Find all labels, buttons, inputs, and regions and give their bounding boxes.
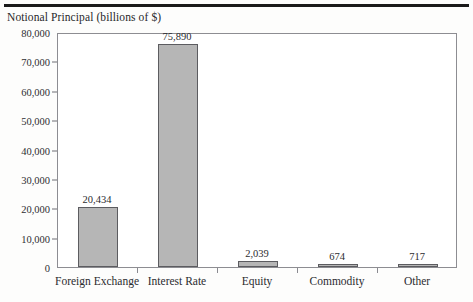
y-axis-tick-label: 70,000 [2, 57, 50, 68]
x-axis-category-label: Equity [242, 275, 273, 287]
bar-value-label: 20,434 [83, 194, 112, 205]
x-axis-tick [217, 268, 218, 273]
x-axis-category-label: Other [404, 275, 430, 287]
y-axis-tick-label: 10,000 [2, 233, 50, 244]
y-axis-tick-label: 40,000 [2, 145, 50, 156]
x-axis-category-label: Foreign Exchange [55, 275, 139, 287]
y-axis-tick-label: 50,000 [2, 116, 50, 127]
bar-interest-rate [158, 44, 198, 267]
page-top-rule [4, 4, 469, 7]
bar-value-label: 674 [329, 251, 345, 262]
chart-page: Notional Principal (billions of $) 010,0… [0, 0, 473, 302]
bar-other [398, 264, 438, 267]
bar-value-label: 2,039 [245, 248, 269, 259]
bar-foreign-exchange [78, 207, 118, 267]
bar-value-label: 717 [409, 251, 425, 262]
x-axis-tick [137, 268, 138, 273]
chart-title: Notional Principal (billions of $) [7, 11, 161, 23]
plot-area [57, 33, 457, 268]
y-axis-tick-label: 30,000 [2, 174, 50, 185]
x-axis-category-label: Interest Rate [148, 275, 206, 287]
y-axis-tick-label: 20,000 [2, 204, 50, 215]
x-axis-tick [297, 268, 298, 273]
x-axis-category-label: Commodity [310, 275, 365, 287]
bar-value-label: 75,890 [163, 31, 192, 42]
bar-commodity [318, 264, 358, 267]
x-axis-tick [377, 268, 378, 273]
y-axis-tick-label: 80,000 [2, 28, 50, 39]
bar-equity [238, 261, 278, 267]
y-axis-tick-label: 0 [2, 263, 50, 274]
y-axis-tick-label: 60,000 [2, 86, 50, 97]
